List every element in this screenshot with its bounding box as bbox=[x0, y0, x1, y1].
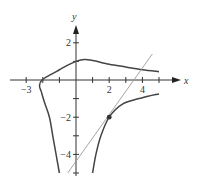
y-axis-label: y bbox=[71, 11, 77, 22]
tangent-line bbox=[68, 54, 153, 173]
x-tick-label: 4 bbox=[140, 84, 145, 95]
x-axis-arrow-icon bbox=[172, 77, 181, 83]
x-tick-label: −3 bbox=[21, 84, 32, 95]
chart-plot: −3242−2−4 x y bbox=[0, 0, 198, 185]
y-tick-label: −4 bbox=[60, 149, 71, 160]
x-axis-label: x bbox=[183, 75, 189, 86]
y-tick-label: 2 bbox=[66, 37, 71, 48]
x-tick-label: 2 bbox=[107, 84, 112, 95]
curve-right-lower-branch bbox=[93, 94, 159, 173]
tangent-point bbox=[107, 115, 112, 120]
y-axis-arrow-icon bbox=[73, 25, 79, 34]
series-group bbox=[39, 54, 159, 173]
y-tick-label: −2 bbox=[60, 112, 71, 123]
curve-left-lower-branch bbox=[41, 91, 59, 173]
annotations bbox=[107, 115, 112, 120]
